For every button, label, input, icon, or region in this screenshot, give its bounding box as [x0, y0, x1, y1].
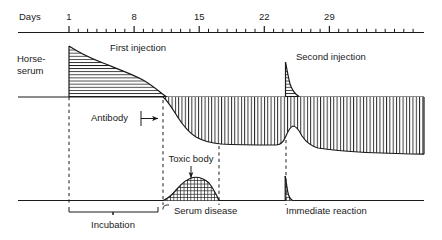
tick-label-day-22: 22 [259, 11, 270, 22]
axis-major-ticks [69, 26, 329, 33]
label-antibody: Antibody [91, 112, 128, 123]
serum-sickness-diagram: Days 1 8 15 22 29 [0, 0, 442, 240]
antibody-area [163, 97, 424, 154]
label-second-injection: Second injection [296, 51, 366, 62]
horse-serum-label-line2: serum [17, 65, 43, 76]
label-immediate-reaction: Immediate reaction [286, 205, 367, 216]
label-first-injection: First injection [110, 42, 166, 53]
horse-serum-label-line1: Horse- [17, 53, 46, 64]
day-axis: Days 1 8 15 22 29 [18, 11, 424, 33]
tick-label-day-1: 1 [66, 11, 71, 22]
horse-serum-axis-label: Horse- serum [17, 53, 46, 76]
serum-sickness-figure: Days 1 8 15 22 29 [0, 0, 442, 240]
toxic-body-fill [163, 177, 219, 200]
axis-minor-ticks [78, 29, 413, 33]
axis-label-days: Days [19, 11, 41, 22]
tick-label-day-8: 8 [131, 11, 136, 22]
second-injection-fill [286, 62, 301, 97]
label-toxic-body: Toxic body [169, 153, 214, 164]
incubation-bracket [69, 207, 158, 215]
label-serum-disease: Serum disease [174, 205, 237, 216]
label-incubation: Incubation [91, 219, 135, 230]
toxic-body-hump [163, 177, 219, 200]
serum-disease-leader [163, 205, 169, 210]
tick-label-day-29: 29 [324, 11, 335, 22]
tick-label-day-15: 15 [194, 11, 205, 22]
second-injection-spike [286, 62, 301, 97]
lower-axis-group [18, 176, 424, 201]
